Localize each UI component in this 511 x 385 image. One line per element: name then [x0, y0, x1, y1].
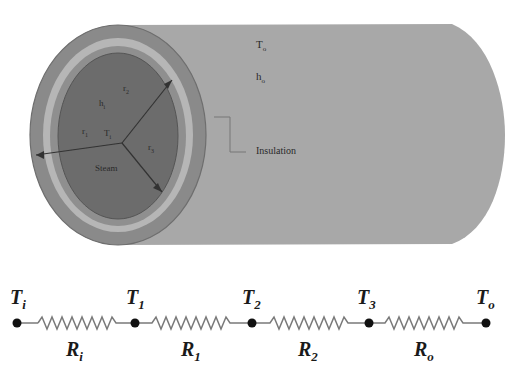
node-label-T2: T2 [242, 286, 261, 313]
h-inner-label: hi [99, 98, 105, 110]
node-label-T3: T3 [357, 286, 376, 313]
resistor-label-Ro: Ro [414, 338, 434, 365]
r2-label: r2 [123, 83, 129, 95]
resistor-Ri [38, 317, 135, 329]
r3-label: r3 [148, 142, 154, 154]
node-To [482, 319, 491, 328]
node-Ti [13, 319, 22, 328]
ambient-temp-label: To [256, 38, 266, 53]
steam-core [58, 53, 178, 219]
diagram-canvas: To ho Insulation hi r2 r1 Ti r3 Steam Ti… [0, 0, 511, 385]
resistor-label-Ri: Ri [66, 338, 83, 365]
diagram-svg [0, 0, 511, 385]
insulation-label: Insulation [256, 145, 296, 156]
resistor-R1 [135, 317, 252, 329]
node-label-Ti: Ti [10, 286, 26, 313]
t-inner-label: Ti [104, 128, 111, 140]
ambient-h-label: ho [256, 70, 265, 85]
resistor-network [13, 317, 491, 329]
node-T2 [248, 319, 257, 328]
resistor-R2 [252, 317, 369, 329]
resistor-label-R1: R1 [181, 338, 201, 365]
pipe-cylinder [30, 24, 505, 245]
resistor-label-R2: R2 [298, 338, 318, 365]
node-T3 [365, 319, 374, 328]
node-T1 [131, 319, 140, 328]
resistor-Ro [369, 317, 486, 329]
node-label-To: To [476, 286, 495, 313]
steam-label: Steam [95, 163, 118, 173]
r1-label: r1 [82, 126, 88, 138]
node-label-T1: T1 [126, 286, 145, 313]
